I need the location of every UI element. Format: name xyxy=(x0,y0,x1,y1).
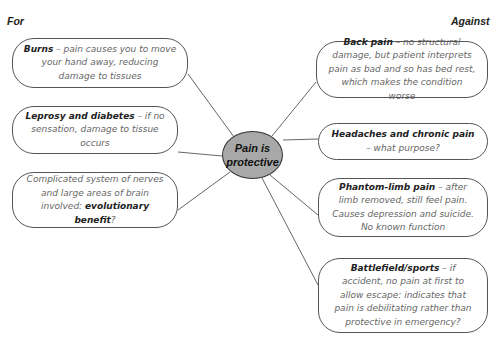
node-text: – what purpose? xyxy=(366,143,440,153)
node-title: Headaches and chronic pain xyxy=(332,129,475,139)
node-phantom-limb: Phantom-limb pain – after limb removed, … xyxy=(318,178,488,237)
link-back-pain xyxy=(272,82,316,136)
link-evolutionary xyxy=(178,172,230,210)
node-text: ? xyxy=(111,215,116,225)
link-headaches xyxy=(283,139,318,140)
node-evolutionary-benefit: Complicated system of nerves and large a… xyxy=(12,172,178,228)
link-phantom xyxy=(270,175,318,215)
link-leprosy xyxy=(178,152,222,156)
link-burns xyxy=(188,74,234,137)
link-battlefield xyxy=(262,178,318,285)
node-title: Battlefield/sports xyxy=(351,263,440,273)
node-title: Burns xyxy=(24,44,53,54)
node-title: Back pain xyxy=(343,37,392,47)
node-text: – pain causes you to move your hand away… xyxy=(42,44,177,81)
center-line-2: protective xyxy=(226,156,279,168)
node-back-pain: Back pain – no structural damage, but pa… xyxy=(316,41,488,98)
node-title: Phantom-limb pain xyxy=(339,182,435,192)
central-node: Pain isprotective xyxy=(222,131,283,179)
center-line-1: Pain is xyxy=(235,142,270,154)
node-title: Leprosy and diabetes xyxy=(25,111,134,121)
node-battlefield-sports: Battlefield/sports – if accident, no pai… xyxy=(318,258,488,333)
node-burns: Burns – pain causes you to move your han… xyxy=(12,38,188,88)
node-headaches: Headaches and chronic pain – what purpos… xyxy=(318,123,488,160)
node-leprosy-diabetes: Leprosy and diabetes – if no sensation, … xyxy=(12,106,178,154)
